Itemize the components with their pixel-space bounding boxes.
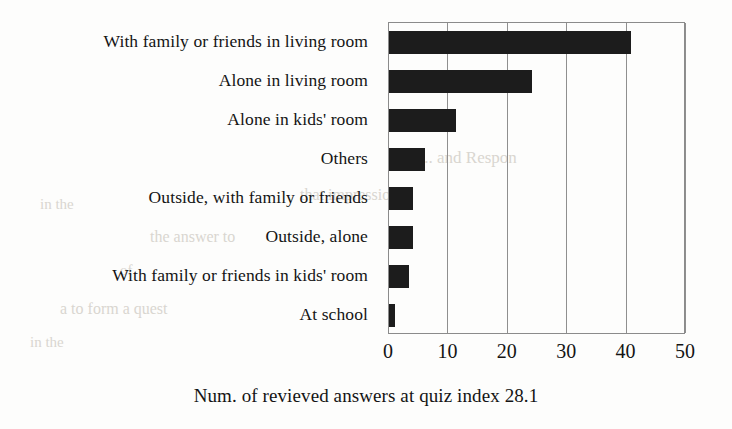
category-label: With family or friends in kids' room — [112, 256, 368, 295]
bar-band — [389, 62, 686, 101]
x-tick-label: 30 — [556, 338, 576, 364]
bar-band — [389, 218, 686, 257]
category-label: With family or friends in living room — [104, 22, 368, 61]
bar[interactable] — [389, 70, 532, 93]
bar-band — [389, 140, 686, 179]
category-label: Alone in kids' room — [227, 100, 368, 139]
category-label: At school — [300, 295, 368, 334]
plot-area — [388, 22, 685, 334]
bar[interactable] — [389, 265, 409, 288]
x-axis-tick-labels: 01020304050 — [388, 338, 685, 364]
bar-band — [389, 101, 686, 140]
x-tick-label: 0 — [383, 338, 393, 364]
bar-band — [389, 296, 686, 335]
bar[interactable] — [389, 187, 413, 210]
x-axis-title: Num. of revieved answers at quiz index 2… — [0, 383, 732, 409]
bar[interactable] — [389, 148, 425, 171]
category-label: Outside, with family or friends — [149, 178, 368, 217]
bar[interactable] — [389, 304, 395, 327]
bar[interactable] — [389, 31, 631, 54]
category-label: Others — [321, 139, 368, 178]
bar-band — [389, 23, 686, 62]
bar[interactable] — [389, 109, 456, 132]
scan-artifact-text: in the — [30, 334, 64, 351]
bar-band — [389, 257, 686, 296]
category-label: Alone in living room — [219, 61, 368, 100]
bar-chart-figure: ... and Responthat impressionin thethe a… — [0, 0, 732, 429]
x-tick-label: 10 — [437, 338, 457, 364]
bar[interactable] — [389, 226, 413, 249]
category-label: Outside, alone — [266, 217, 369, 256]
bar-band — [389, 179, 686, 218]
x-tick-label: 40 — [616, 338, 636, 364]
x-tick-label: 20 — [497, 338, 517, 364]
x-tick-label: 50 — [675, 338, 695, 364]
category-axis-labels: With family or friends in living roomAlo… — [0, 22, 378, 334]
